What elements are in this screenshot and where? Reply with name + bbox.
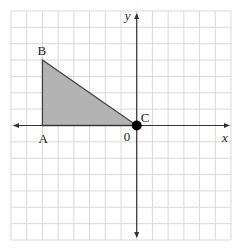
y-axis-down-arrow-icon: [134, 232, 139, 238]
y-axis-label: y: [123, 8, 131, 23]
y-axis-up-arrow-icon: [134, 13, 139, 19]
origin-label: 0: [124, 129, 131, 144]
vertex-label-a: A: [38, 131, 48, 146]
coordinate-plane: A B C 0 x y: [0, 0, 239, 251]
x-axis-label: x: [221, 130, 228, 145]
vertex-label-c: C: [141, 110, 150, 125]
x-axis-left-arrow-icon: [13, 123, 19, 128]
x-axis-right-arrow-icon: [224, 123, 230, 128]
vertex-label-b: B: [37, 43, 46, 58]
